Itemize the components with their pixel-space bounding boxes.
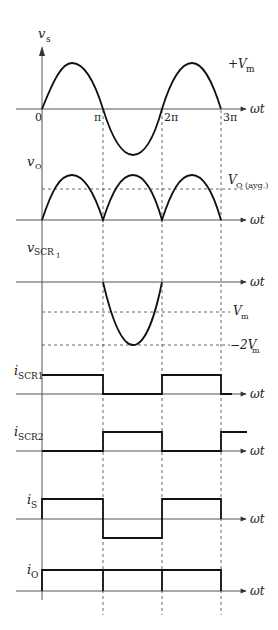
panel-vscr1: v SCR 1 V m −2V m ωt [16,240,265,355]
vscr1-x-label: ωt [250,275,265,289]
svg-text:m: m [241,312,249,321]
panel-iscr1: i SCR1 ωt [14,363,265,401]
panel-iscr2: i SCR2 ωt [14,424,265,458]
panel-vs: v s 0 π 2π 3π ωt +V m [16,26,265,155]
svg-text:m: m [246,64,255,74]
vo-label: v [27,154,35,169]
svg-text:O: O [31,570,38,580]
vo-x-label: ωt [250,213,265,227]
svg-text:1: 1 [56,252,60,260]
waveform-diagram: v s 0 π 2π 3π ωt +V m v O V O (avg.) ωt … [0,0,278,630]
svg-text:O (avg.): O (avg.) [236,181,268,190]
svg-text:SCR: SCR [34,247,54,257]
period-guides [103,110,221,615]
svg-text:s: s [46,34,51,44]
iscr2-waveform [42,432,247,451]
panel-is: i S ωt [16,492,265,538]
vscr1-waveform [103,282,162,345]
tick-0: 0 [35,111,42,124]
iscr1-waveform [42,375,232,394]
vs-x-label: ωt [250,102,265,116]
svg-text:S: S [31,500,37,510]
tick-2pi: 2π [164,111,178,124]
is-x-label: ωt [250,512,265,526]
io-waveform [42,570,221,591]
svg-text:SCR1: SCR1 [18,371,44,381]
panel-io: i O ωt [16,562,265,598]
tick-pi: π [94,111,101,124]
y-axis-arrow-icon [39,46,45,56]
io-x-label: ωt [250,584,265,598]
panel-vo: v O V O (avg.) ωt [16,154,268,227]
iscr1-x-label: ωt [250,387,265,401]
iscr2-x-label: ωt [250,444,265,458]
vs-label: v [38,26,46,41]
vo-waveform [42,175,221,220]
tick-3pi: 3π [223,111,237,124]
svg-text:O: O [35,162,42,171]
svg-text:SCR2: SCR2 [18,432,44,442]
svg-text:m: m [252,346,260,355]
